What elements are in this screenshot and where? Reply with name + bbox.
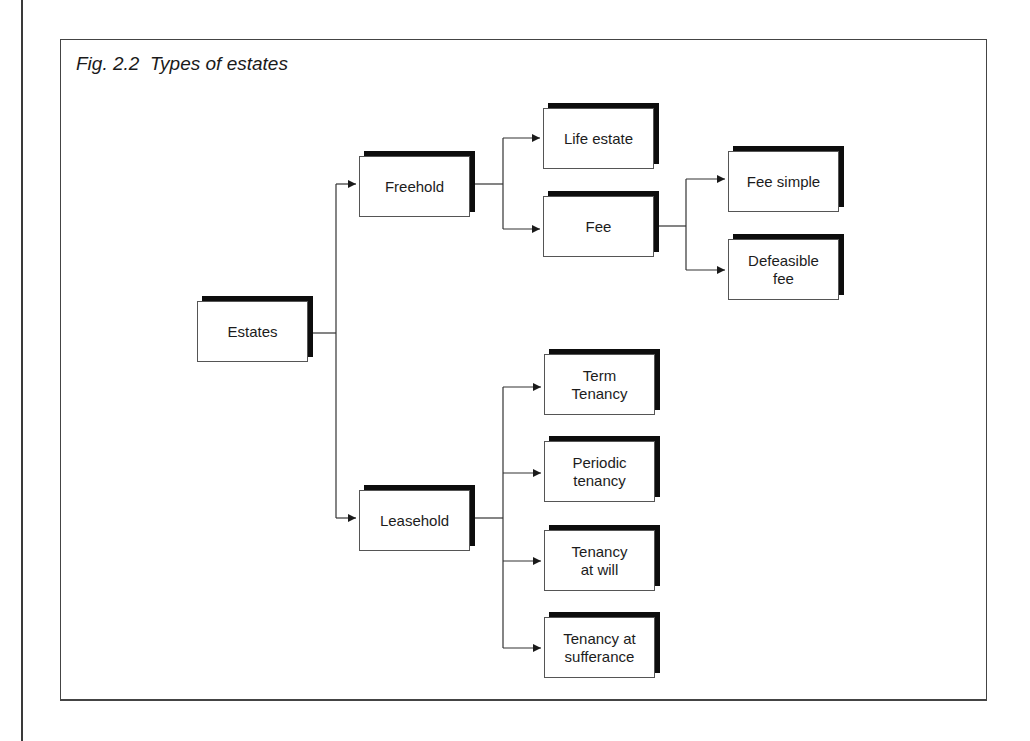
- node-label: Freehold: [385, 178, 444, 196]
- node-label: Tenancy at sufferance: [563, 630, 636, 666]
- node-label: Fee simple: [747, 173, 820, 191]
- node-tenancy-at-sufferance: Tenancy at sufferance: [544, 617, 655, 678]
- box: Periodic tenancy: [544, 441, 655, 502]
- node-label: Defeasible fee: [748, 252, 819, 288]
- node-label: Estates: [227, 323, 277, 341]
- node-defeasible-fee: Defeasible fee: [728, 239, 839, 300]
- node-fee: Fee: [543, 196, 654, 257]
- node-label: Term Tenancy: [572, 367, 628, 403]
- node-leasehold: Leasehold: [359, 490, 470, 551]
- box: Tenancy at sufferance: [544, 617, 655, 678]
- box: Term Tenancy: [544, 354, 655, 415]
- box: Freehold: [359, 156, 470, 217]
- connector-lines: [0, 0, 1030, 741]
- node-tenancy-at-will: Tenancy at will: [544, 530, 655, 591]
- node-label: Leasehold: [380, 512, 449, 530]
- box: Leasehold: [359, 490, 470, 551]
- box: Tenancy at will: [544, 530, 655, 591]
- node-label: Life estate: [564, 130, 633, 148]
- node-freehold: Freehold: [359, 156, 470, 217]
- node-label: Tenancy at will: [572, 543, 628, 579]
- box: Fee: [543, 196, 654, 257]
- node-label: Periodic tenancy: [572, 454, 626, 490]
- node-label: Fee: [586, 218, 612, 236]
- box: Fee simple: [728, 151, 839, 212]
- node-estates: Estates: [197, 301, 308, 362]
- box: Life estate: [543, 108, 654, 169]
- node-life-estate: Life estate: [543, 108, 654, 169]
- node-periodic-tenancy: Periodic tenancy: [544, 441, 655, 502]
- node-term-tenancy: Term Tenancy: [544, 354, 655, 415]
- box: Defeasible fee: [728, 239, 839, 300]
- node-fee-simple: Fee simple: [728, 151, 839, 212]
- box: Estates: [197, 301, 308, 362]
